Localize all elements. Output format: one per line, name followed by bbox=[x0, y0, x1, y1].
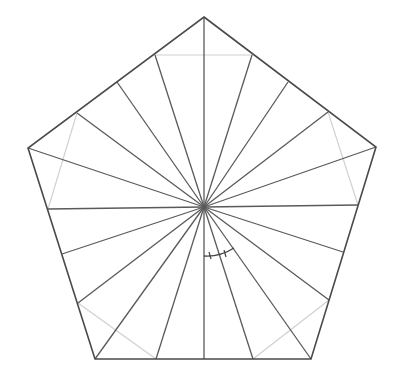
spoke-line-18 bbox=[117, 82, 204, 207]
spoke-line-19 bbox=[155, 55, 204, 207]
spoke-line-3 bbox=[204, 112, 328, 207]
spoke-line-13 bbox=[78, 207, 204, 303]
pentagon-outline bbox=[28, 17, 376, 359]
spoke-line-17 bbox=[77, 113, 204, 207]
spoke-line-16 bbox=[28, 148, 204, 207]
spoke-line-8 bbox=[204, 207, 311, 359]
spoke-line-2 bbox=[204, 82, 288, 207]
radial-spokes bbox=[28, 17, 376, 359]
spoke-line-14 bbox=[62, 207, 204, 254]
chord-line-3 bbox=[78, 303, 156, 359]
spoke-line-6 bbox=[204, 207, 343, 252]
spoke-line-9 bbox=[204, 207, 253, 359]
pentagon-diagram bbox=[0, 0, 394, 381]
spoke-line-11 bbox=[156, 207, 204, 359]
spoke-line-4 bbox=[204, 147, 376, 207]
spoke-line-15 bbox=[48, 207, 204, 209]
spoke-line-1 bbox=[204, 55, 252, 207]
spoke-line-12 bbox=[95, 207, 204, 359]
spoke-line-5 bbox=[204, 205, 358, 207]
chord-line-4 bbox=[48, 113, 77, 209]
